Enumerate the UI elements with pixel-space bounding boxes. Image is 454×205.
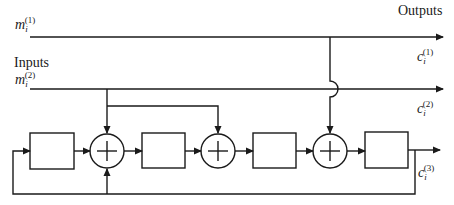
inputs-label: Inputs xyxy=(14,56,49,70)
outputs-label: Outputs xyxy=(398,4,442,18)
delay-block-3 xyxy=(253,133,296,168)
delay-block-4 xyxy=(365,132,408,168)
signal-m1-label: mi(1) xyxy=(15,16,35,34)
m2-to-adder2-wire xyxy=(107,106,218,133)
signal-c1-label: ci(1) xyxy=(417,48,433,66)
delay-block-2 xyxy=(142,133,185,168)
signal-c2-label: ci(2) xyxy=(417,100,433,118)
encoder-diagram xyxy=(0,0,454,205)
adder-2 xyxy=(201,134,235,168)
signal-c3-label: ci(3) xyxy=(418,164,434,182)
signal-m2-label: mi(2) xyxy=(15,71,35,89)
adder-1 xyxy=(90,134,124,168)
m1-to-adder3-wire xyxy=(330,37,338,133)
adder-3 xyxy=(313,134,347,168)
delay-block-1 xyxy=(30,133,74,169)
